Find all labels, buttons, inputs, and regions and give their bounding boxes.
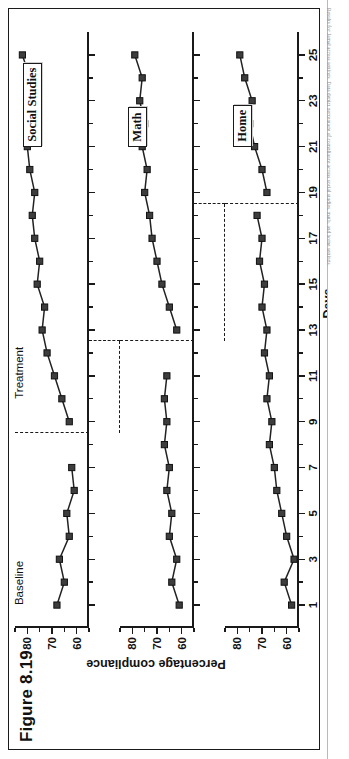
y-axis-title: Percentage compliance	[86, 657, 226, 671]
y-tick-label: 70	[151, 637, 163, 650]
x-tick	[194, 513, 200, 514]
x-tick	[299, 398, 303, 399]
y-tick	[274, 628, 275, 632]
x-tick	[299, 329, 305, 330]
data-point-marker	[274, 487, 280, 493]
x-tick-label: 13	[307, 324, 319, 337]
panel-tag-social-studies: Social Studies	[23, 63, 42, 147]
y-tick	[144, 628, 145, 632]
x-tick-label: 19	[307, 186, 319, 199]
x-tick-label: 25	[307, 49, 319, 62]
x-tick	[299, 169, 303, 170]
x-tick-label: 11	[307, 370, 319, 382]
data-point-marker	[132, 52, 138, 58]
data-point-marker	[264, 327, 270, 333]
x-tick-label: 9	[307, 419, 319, 425]
data-point-marker	[142, 189, 148, 195]
x-tick	[194, 77, 198, 78]
y-tick	[64, 628, 65, 632]
x-tick	[299, 146, 305, 147]
data-point-marker	[69, 464, 75, 470]
data-point-marker	[259, 304, 265, 310]
data-point-marker	[34, 281, 40, 287]
x-tick	[194, 536, 198, 537]
x-tick	[194, 146, 200, 147]
y-tick-label: 60	[281, 637, 293, 650]
data-point-marker	[147, 212, 153, 218]
data-point-marker	[144, 166, 150, 172]
data-point-marker	[261, 350, 267, 356]
data-point-marker	[32, 189, 38, 195]
x-tick	[89, 192, 95, 193]
x-tick-label: 15	[307, 278, 319, 291]
data-point-marker	[27, 166, 33, 172]
x-tick	[299, 421, 305, 422]
x-tick	[194, 467, 200, 468]
figure-title: Figure 8.19	[17, 650, 37, 742]
data-point-marker	[249, 98, 255, 104]
x-tick	[89, 375, 95, 376]
data-point-marker	[164, 419, 170, 425]
data-point-marker	[19, 52, 25, 58]
x-tick	[299, 467, 305, 468]
phase-change-line-extension	[89, 340, 120, 341]
x-tick	[299, 123, 303, 124]
data-point-marker	[269, 419, 275, 425]
y-tick	[76, 628, 77, 634]
data-point-marker	[174, 556, 180, 562]
data-point-marker	[242, 75, 248, 81]
x-tick	[89, 513, 95, 514]
y-tick-label: 70	[46, 637, 58, 650]
data-point-marker	[161, 442, 167, 448]
x-tick	[299, 352, 303, 353]
x-tick	[194, 238, 200, 239]
x-tick	[89, 306, 93, 307]
x-tick	[194, 215, 198, 216]
x-tick	[299, 375, 305, 376]
data-point-marker	[169, 579, 175, 585]
x-tick	[299, 261, 303, 262]
x-tick-label: 5	[307, 510, 319, 516]
x-tick	[299, 513, 305, 514]
y-tick-label: 70	[256, 637, 268, 650]
data-point-marker	[44, 350, 50, 356]
data-point-marker	[252, 144, 258, 150]
x-tick	[89, 238, 95, 239]
y-tick	[224, 628, 225, 632]
y-tick-label: 80	[231, 637, 243, 650]
x-tick	[89, 329, 95, 330]
x-tick	[299, 215, 303, 216]
x-tick	[89, 283, 95, 284]
figure-page: Figure 8.19 6070806070806070801357911131…	[0, 0, 349, 759]
x-tick	[89, 169, 93, 170]
figure-caption: Results for Jamal across settings. Data …	[327, 8, 332, 748]
x-tick	[299, 604, 305, 605]
y-tick	[88, 628, 89, 632]
phase-change-connector	[119, 341, 120, 433]
x-tick	[194, 444, 198, 445]
x-tick	[194, 169, 198, 170]
y-tick	[286, 628, 287, 634]
data-point-marker	[71, 487, 77, 493]
data-point-marker	[59, 396, 65, 402]
data-point-marker	[37, 258, 43, 264]
x-tick	[89, 581, 93, 582]
y-tick	[14, 628, 15, 632]
data-point-marker	[166, 533, 172, 539]
x-tick-label: 1	[307, 602, 319, 608]
y-tick-label: 80	[21, 637, 33, 650]
x-tick	[299, 536, 303, 537]
x-tick	[299, 283, 305, 284]
x-tick	[299, 581, 303, 582]
data-point-marker	[61, 579, 67, 585]
x-tick	[89, 54, 95, 55]
y-tick-label: 60	[71, 637, 83, 650]
x-tick-label: 21	[307, 140, 319, 153]
data-point-marker	[54, 602, 60, 608]
x-tick	[89, 421, 95, 422]
series-line-baseline	[257, 215, 294, 605]
plot-area: 607080607080607080135791113151719212325	[15, 32, 299, 628]
data-point-marker	[256, 258, 262, 264]
y-tick	[39, 628, 40, 632]
data-point-marker	[139, 75, 145, 81]
